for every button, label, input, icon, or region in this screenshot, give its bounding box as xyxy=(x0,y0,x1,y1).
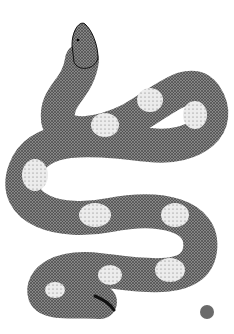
snake-head xyxy=(72,23,98,68)
snake-illustration xyxy=(0,0,234,334)
illustration-canvas xyxy=(0,0,234,334)
gray-dot-marker xyxy=(200,305,214,319)
